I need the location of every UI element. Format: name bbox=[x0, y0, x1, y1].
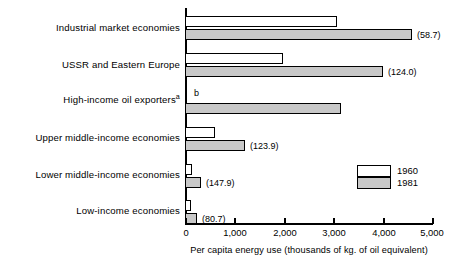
category-label-low-income-economies: Low-income economies bbox=[76, 206, 180, 216]
bar-upper-middle-income-economies-1960 bbox=[185, 127, 215, 138]
bar-industrial-market-economies-1981 bbox=[185, 29, 412, 40]
bar-upper-middle-income-economies-1981 bbox=[185, 140, 245, 151]
bar-high-income-oil-exporters-1981 bbox=[185, 103, 341, 114]
category-label-high-income-oil-exporters: High-income oil exportersa bbox=[63, 95, 180, 105]
bar-industrial-market-economies-1960 bbox=[185, 16, 337, 27]
category-label-text: Industrial market economies bbox=[56, 22, 180, 33]
x-tick-label-3000: 3,000 bbox=[322, 228, 345, 237]
category-label-lower-middle-income-economies: Lower middle-income economies bbox=[35, 170, 180, 180]
bar-low-income-economies-1960 bbox=[185, 200, 191, 211]
category-label-industrial-market-economies: Industrial market economies bbox=[56, 23, 180, 33]
legend-label-1981: 1981 bbox=[397, 178, 418, 187]
x-tick-label-5000: 5,000 bbox=[420, 228, 443, 237]
category-label-text: Upper middle-income economies bbox=[35, 132, 180, 143]
bar-value-upper-middle-income-economies: (123.9) bbox=[250, 142, 279, 151]
bar-value-ussr-and-eastern-europe: (124.0) bbox=[388, 68, 417, 77]
legend-label-1960: 1960 bbox=[397, 166, 418, 175]
bar-lower-middle-income-economies-1981 bbox=[185, 177, 201, 188]
x-tick-1000 bbox=[234, 218, 236, 224]
x-tick-2000 bbox=[284, 218, 286, 224]
legend-swatch-1960 bbox=[357, 165, 391, 177]
x-tick-0 bbox=[185, 218, 187, 224]
x-tick-3000 bbox=[333, 218, 335, 224]
x-tick-4000 bbox=[383, 218, 385, 224]
bar-value-lower-middle-income-economies: (147.9) bbox=[206, 179, 235, 188]
category-label-text: High-income oil exporters bbox=[63, 94, 176, 105]
bar-value-industrial-market-economies: (58.7) bbox=[417, 31, 441, 40]
category-label-upper-middle-income-economies: Upper middle-income economies bbox=[35, 133, 180, 143]
footnote-marker-a: a bbox=[176, 92, 180, 101]
bar-chart: Industrial market economies USSR and Eas… bbox=[0, 0, 452, 268]
bar-lower-middle-income-economies-1960 bbox=[185, 164, 192, 175]
legend: 1960 1981 bbox=[357, 165, 418, 189]
x-tick-label-0: 0 bbox=[183, 228, 188, 237]
legend-item-1981: 1981 bbox=[357, 177, 418, 189]
category-label-text: USSR and Eastern Europe bbox=[62, 59, 180, 70]
x-tick-5000 bbox=[432, 218, 434, 224]
category-label-ussr-and-eastern-europe: USSR and Eastern Europe bbox=[62, 60, 180, 70]
bar-ussr-and-eastern-europe-1981 bbox=[185, 66, 383, 77]
footnote-marker-b: b bbox=[194, 89, 199, 98]
category-label-text: Lower middle-income economies bbox=[35, 169, 180, 180]
legend-item-1960: 1960 bbox=[357, 165, 418, 177]
category-label-text: Low-income economies bbox=[76, 205, 180, 216]
x-tick-label-2000: 2,000 bbox=[273, 228, 296, 237]
x-tick-label-1000: 1,000 bbox=[223, 228, 246, 237]
legend-swatch-1981 bbox=[357, 177, 391, 189]
x-tick-label-4000: 4,000 bbox=[372, 228, 395, 237]
value-axis-line bbox=[185, 223, 433, 225]
x-axis-title: Per capita energy use (thousands of kg. … bbox=[185, 245, 433, 255]
bar-ussr-and-eastern-europe-1960 bbox=[185, 53, 283, 64]
plot-area: (58.7) (124.0) b (123.9) (147.9) (80.7) bbox=[185, 8, 432, 226]
